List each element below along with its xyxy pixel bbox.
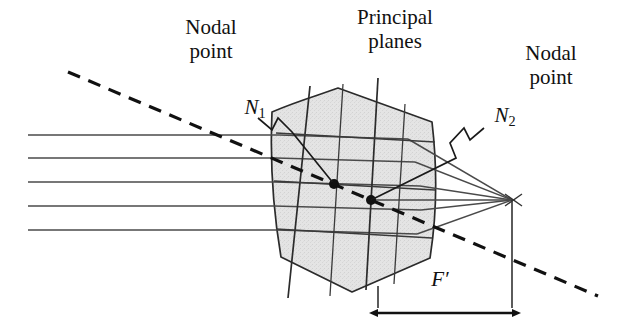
n2-letter: N [494,103,508,127]
principal-planes-label: Principal planes [336,6,454,53]
n1-label: N1 [238,96,272,121]
n2-subscript: 2 [508,113,515,129]
optics-figure: Nodal point Principal planes Nodal point… [0,0,625,333]
n2-label: N2 [488,104,522,129]
focal-distance-label: F′ [420,268,460,292]
nodal-point-left-label: Nodal point [152,16,270,63]
incoming-rays [28,135,279,230]
nodal-point-right-label: Nodal point [492,42,610,89]
lens-body [271,88,435,292]
n1-letter: N [244,95,258,119]
n1-subscript: 1 [258,105,265,121]
lens-outline [271,88,435,292]
